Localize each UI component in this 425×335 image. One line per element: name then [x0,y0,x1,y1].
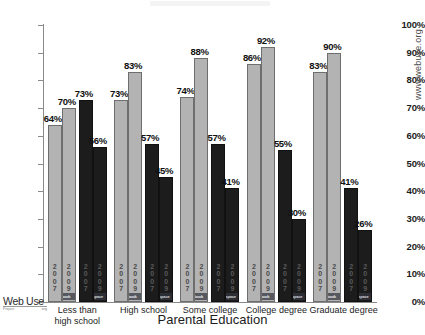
bar-value-label: 41% [221,176,239,187]
bar-year-label: 2 0 0 7 [248,263,260,292]
bar[interactable]: 2 0 0 9myspace [292,219,306,302]
bar-year-label: 2 0 0 9 [328,263,340,292]
bar-year-label: 2 0 0 7 [80,263,92,292]
y-axis-tick-label: 50% [387,158,425,169]
bar-value-label: 88% [190,46,208,57]
bar-value-label: 55% [274,138,292,149]
bar-value-label: 30% [288,207,306,218]
bar-group: 2 0 0 773%2 0 0 9facebook83%2 0 0 757%2 … [110,25,176,302]
y-axis-tick-label: 20% [387,241,425,252]
bar-chart: 100%90%80%70%60%50%40%30%20%10%0% 2 0 0 … [0,0,425,335]
bar-year-label: 2 0 0 7 [314,263,326,292]
bar[interactable]: 2 0 0 9myspace [159,177,173,302]
bar-value-label: 57% [207,132,225,143]
bar[interactable]: 2 0 0 9myspace [225,188,239,302]
bar-value-label: 45% [155,165,173,176]
bar-year-label: 2 0 0 9 [63,263,75,292]
brand-label: myspace [225,294,235,299]
bar-year-label: 2 0 0 7 [146,263,158,292]
bar-value-label: 73% [75,88,93,99]
bar[interactable]: 2 0 0 9facebook [327,53,341,302]
bar-year-label: 2 0 0 7 [212,263,224,292]
bar-value-label: 56% [89,135,107,146]
bar-year-label: 2 0 0 7 [181,263,193,292]
brand-label: myspace [292,294,302,299]
bar-value-label: 90% [323,41,341,52]
webuse-logo-subtext: Project .org [3,307,47,311]
bar[interactable]: 2 0 0 9facebook [128,72,142,302]
bar-group: 2 0 0 774%2 0 0 9facebook88%2 0 0 757%2 … [177,25,243,302]
webuse-logo-text: Web Use [3,296,47,307]
brand-label: facebook [128,294,136,299]
watermark-url: www.webuse.org [413,14,423,100]
bar-value-label: 73% [110,88,128,99]
bar-value-label: 64% [44,113,62,124]
bar-year-label: 2 0 0 9 [129,263,141,292]
brand-label: facebook [327,294,335,299]
myspace-logo: myspace [93,293,106,300]
bar-year-label: 2 0 0 7 [49,263,61,292]
bar[interactable]: 2 0 0 7 [79,100,93,302]
webuse-logo-sub-left: Project [3,307,14,311]
bar-year-label: 2 0 0 9 [160,263,172,292]
y-axis-tick-label: 70% [387,102,425,113]
bar[interactable]: 2 0 0 7 [211,144,225,302]
bar-year-label: 2 0 0 9 [359,263,371,292]
brand-label: facebook [261,294,269,299]
bar-value-label: 57% [141,132,159,143]
facebook-logo: facebook [261,293,274,300]
facebook-logo: facebook [128,293,141,300]
myspace-logo: myspace [225,293,238,300]
bar[interactable]: 2 0 0 9facebook [194,58,208,302]
plot-area: 2 0 0 764%2 0 0 9facebook70%2 0 0 773%2 … [44,25,376,302]
bar[interactable]: 2 0 0 9myspace [93,147,107,302]
bar[interactable]: 2 0 0 7 [247,64,261,302]
bar-value-label: 41% [340,176,358,187]
bar-group: 2 0 0 783%2 0 0 9facebook90%2 0 0 741%2 … [310,25,376,302]
bar[interactable]: 2 0 0 7 [48,125,62,302]
facebook-logo: facebook [327,293,340,300]
bar[interactable]: 2 0 0 9facebook [62,108,76,302]
brand-label: myspace [159,294,169,299]
bar-value-label: 92% [257,35,275,46]
y-axis-tick-label: 40% [387,185,425,196]
webuse-logo-sub-right: .org [41,307,47,311]
facebook-logo: facebook [194,293,207,300]
bar-year-label: 2 0 0 7 [115,263,127,292]
scan-artifact [150,1,270,6]
webuse-logo: Web Use Project .org [3,296,47,316]
bar[interactable]: 2 0 0 7 [313,72,327,302]
bar[interactable]: 2 0 0 7 [344,188,358,302]
bar-year-label: 2 0 0 7 [279,263,291,292]
y-axis-tick-label: 10% [387,268,425,279]
y-axis-tick-label: 0% [387,296,425,307]
bar-value-label: 83% [124,60,142,71]
bar-value-label: 86% [243,52,261,63]
bar-group: 2 0 0 786%2 0 0 9facebook92%2 0 0 755%2 … [243,25,309,302]
x-axis-line [43,302,377,303]
bar-year-label: 2 0 0 9 [94,263,106,292]
bar[interactable]: 2 0 0 9myspace [358,230,372,302]
brand-label: facebook [62,294,70,299]
bar-value-label: 70% [58,96,76,107]
bar-year-label: 2 0 0 9 [293,263,305,292]
facebook-logo: facebook [62,293,75,300]
bar-year-label: 2 0 0 7 [345,263,357,292]
bar-value-label: 83% [309,60,327,71]
bar[interactable]: 2 0 0 7 [278,150,292,302]
bar[interactable]: 2 0 0 7 [114,100,128,302]
brand-label: myspace [358,294,368,299]
bar-year-label: 2 0 0 9 [226,263,238,292]
bar-group: 2 0 0 764%2 0 0 9facebook70%2 0 0 773%2 … [44,25,110,302]
y-axis-tick-label: 60% [387,130,425,141]
bar[interactable]: 2 0 0 7 [180,97,194,302]
myspace-logo: myspace [292,293,305,300]
bar-value-label: 26% [354,218,372,229]
brand-label: myspace [93,294,103,299]
bar-year-label: 2 0 0 9 [195,263,207,292]
bar[interactable]: 2 0 0 9facebook [261,47,275,302]
x-axis-title: Parental Education [0,312,425,327]
bar-year-label: 2 0 0 9 [262,263,274,292]
myspace-logo: myspace [358,293,371,300]
brand-label: facebook [194,294,202,299]
